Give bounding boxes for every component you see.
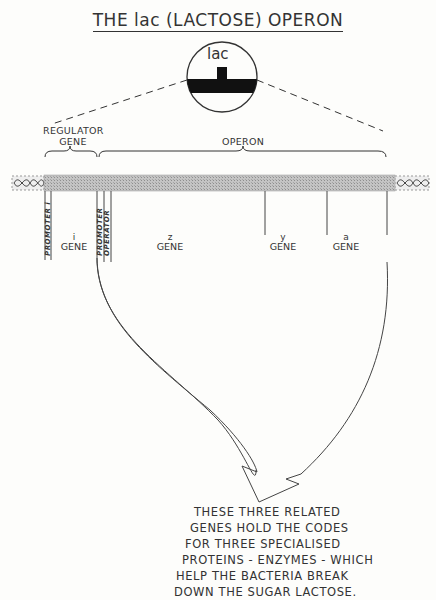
- regulator-brace: [45, 146, 97, 157]
- magnifier-label: lac: [207, 45, 229, 63]
- caption-line-4: PROTEINS - ENZYMES - WHICH: [182, 553, 373, 568]
- gene-z-label: zGENE: [150, 232, 190, 252]
- operator-label: OPERATOR: [103, 194, 111, 256]
- zoom-line-left: [52, 80, 187, 124]
- operon-label: OPERON: [218, 136, 268, 147]
- gene-a-label: aGENE: [326, 232, 366, 252]
- caption-line-5: HELP THE BACTERIA BREAK: [176, 569, 349, 584]
- gene-i-label: iGENE: [54, 232, 94, 252]
- operon-brace: [99, 146, 386, 157]
- zoom-line-right: [257, 80, 383, 131]
- gene-y-label: yGENE: [263, 232, 303, 252]
- caption-line-3: FOR THREE SPECIALISED: [185, 537, 341, 552]
- dna-bar: [44, 175, 395, 191]
- dna-end-right: [395, 176, 429, 190]
- caption-line-6: DOWN THE SUGAR LACTOSE.: [174, 585, 357, 600]
- curved-arrows: [97, 258, 388, 502]
- promoter-i-label: PROMOTER i: [44, 194, 52, 256]
- dna-end-left: [12, 176, 44, 190]
- caption-line-2: GENES HOLD THE CODES: [190, 521, 349, 536]
- regulator-gene-label: REGULATOR GENE: [43, 125, 103, 147]
- caption-line-1: THESE THREE RELATED: [194, 505, 340, 520]
